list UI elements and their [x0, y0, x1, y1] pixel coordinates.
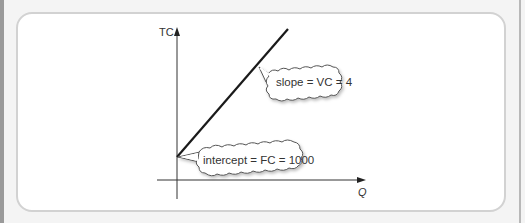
- intercept-callout-text: intercept = FC = 1000: [203, 154, 314, 166]
- x-axis: [157, 177, 366, 183]
- y-axis-label: TC: [159, 26, 174, 38]
- x-axis-arrow-icon: [357, 177, 366, 183]
- cost-diagram: [0, 0, 525, 223]
- y-axis-arrow-icon: [174, 27, 180, 36]
- x-axis-label: Q: [358, 186, 367, 198]
- y-axis: [174, 27, 180, 199]
- slope-callout-text: slope = VC = 4: [276, 76, 352, 88]
